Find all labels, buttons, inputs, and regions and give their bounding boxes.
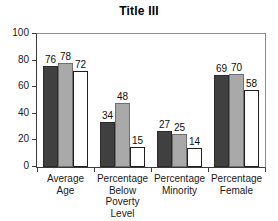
category-label-1: PercentageBelowPovertyLevel (90, 173, 155, 219)
category-label-line: Average (33, 173, 98, 185)
y-tick-label-60: 60 (18, 81, 29, 91)
category-label-line: Percentage (147, 173, 212, 185)
bar-group-2: 272514 (151, 34, 208, 167)
category-label-0: AverageAge (33, 173, 98, 196)
x-tick-3 (208, 168, 209, 172)
bar-g0-s2[interactable] (73, 71, 88, 167)
bar-value-label-g2-s1: 25 (169, 123, 190, 133)
bar-g0-s0[interactable] (43, 66, 58, 167)
category-label-line: Female (204, 185, 269, 197)
y-tick-label-40: 40 (18, 108, 29, 118)
bar-g1-s2[interactable] (130, 147, 145, 167)
x-tick-4 (265, 168, 266, 172)
bar-g3-s2[interactable] (244, 90, 259, 167)
bar-g3-s0[interactable] (214, 75, 229, 167)
bar-group-3: 697058 (208, 34, 265, 167)
bar-value-label-g1-s1: 48 (112, 92, 133, 102)
bar-value-label-g3-s2: 58 (241, 79, 262, 89)
category-label-line: Age (33, 185, 98, 197)
bar-chart: Title III 020406080100 76787234481527251… (0, 0, 278, 221)
category-label-line: Percentage (90, 173, 155, 185)
category-label-3: PercentageFemale (204, 173, 269, 196)
plot-area: 767872344815272514697058 (37, 34, 265, 167)
category-label-line: Percentage (204, 173, 269, 185)
y-tick-label-0: 0 (23, 161, 29, 171)
bar-value-label-g1-s2: 15 (127, 136, 148, 146)
category-label-line: Level (90, 208, 155, 220)
y-tick-label-80: 80 (18, 55, 29, 65)
bar-g2-s2[interactable] (187, 148, 202, 167)
y-tick-label-20: 20 (18, 134, 29, 144)
bar-value-label-g3-s1: 70 (226, 63, 247, 73)
bar-g2-s0[interactable] (157, 131, 172, 167)
y-tick-label-100: 100 (12, 28, 29, 38)
bar-g1-s0[interactable] (100, 122, 115, 167)
x-tick-0 (37, 168, 38, 172)
x-tick-1 (94, 168, 95, 172)
bar-group-0: 767872 (37, 34, 94, 167)
chart-title: Title III (0, 4, 278, 18)
bar-value-label-g2-s2: 14 (184, 137, 205, 147)
bar-group-1: 344815 (94, 34, 151, 167)
category-label-line: Below (90, 185, 155, 197)
bar-g0-s1[interactable] (58, 63, 73, 167)
y-axis: 020406080100 (0, 33, 36, 168)
category-label-line: Minority (147, 185, 212, 197)
category-label-line: Poverty (90, 196, 155, 208)
category-label-2: PercentageMinority (147, 173, 212, 196)
bar-value-label-g0-s2: 72 (70, 60, 91, 70)
x-tick-2 (151, 168, 152, 172)
